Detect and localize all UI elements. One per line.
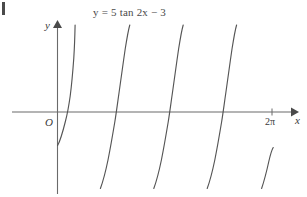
- curve-group: [58, 25, 274, 189]
- tan-branch-1: [58, 25, 76, 146]
- graph-figure: y = 5 tan 2x − 3 y x O 2π: [0, 0, 307, 197]
- x-tick-label-2pi: 2π: [265, 117, 275, 127]
- tan-branch-4: [207, 25, 236, 189]
- equation-label: y = 5 tan 2x − 3: [93, 7, 166, 18]
- x-axis: [12, 108, 299, 117]
- tan-branch-2: [100, 25, 129, 189]
- tan-branch-5: [262, 148, 274, 189]
- y-axis-label: y: [45, 20, 50, 31]
- y-axis: [53, 20, 62, 194]
- origin-label: O: [45, 117, 53, 128]
- y-axis-arrowhead: [53, 20, 62, 28]
- x-axis-label: x: [295, 115, 300, 126]
- tan-branch-3: [154, 25, 183, 189]
